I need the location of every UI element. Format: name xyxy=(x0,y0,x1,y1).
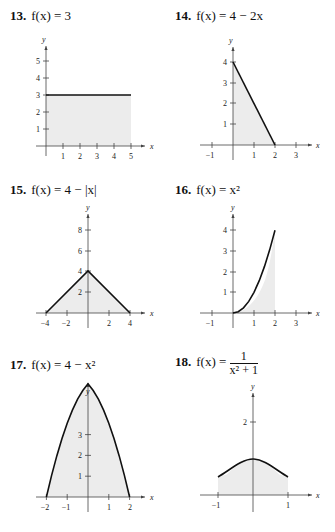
graph-15: −4 −2 2 4 2 4 6 8 x y xyxy=(36,203,154,328)
svg-text:−2: −2 xyxy=(62,319,71,328)
graph-14: −1 1 2 3 1 2 3 4 x y xyxy=(200,36,320,160)
svg-text:1: 1 xyxy=(78,472,82,481)
shaded-area xyxy=(233,230,275,313)
svg-text:3: 3 xyxy=(294,151,298,160)
svg-text:1: 1 xyxy=(107,503,111,512)
svg-text:y: y xyxy=(41,35,46,44)
svg-text:2: 2 xyxy=(78,451,82,460)
svg-text:4: 4 xyxy=(223,226,227,235)
svg-text:2: 2 xyxy=(78,288,82,297)
svg-text:x: x xyxy=(149,309,154,318)
svg-text:y: y xyxy=(230,203,235,212)
svg-text:1: 1 xyxy=(252,319,256,328)
shaded-area xyxy=(46,95,131,146)
svg-text:−1: −1 xyxy=(212,501,221,510)
svg-text:8: 8 xyxy=(78,226,82,235)
svg-text:−1: −1 xyxy=(206,319,215,328)
svg-text:2: 2 xyxy=(78,152,82,161)
svg-text:4: 4 xyxy=(78,267,82,276)
graph-16: −1 1 2 3 1 2 3 4 x y xyxy=(200,203,320,328)
svg-text:y: y xyxy=(250,382,255,391)
svg-text:2: 2 xyxy=(273,319,277,328)
graph-18: −1 1 2 x y xyxy=(200,382,320,512)
svg-text:1: 1 xyxy=(252,151,256,160)
svg-text:y: y xyxy=(85,387,90,396)
svg-text:3: 3 xyxy=(294,319,298,328)
svg-text:x: x xyxy=(149,142,154,151)
svg-text:x: x xyxy=(315,491,320,500)
graphs-canvas: 1 2 3 4 5 1 2 3 4 5 x y −1 1 2 3 1 2 3 4… xyxy=(0,0,335,532)
svg-text:2: 2 xyxy=(223,99,227,108)
svg-text:4: 4 xyxy=(112,152,116,161)
svg-text:3: 3 xyxy=(78,431,82,440)
svg-text:4: 4 xyxy=(223,58,227,67)
svg-text:3: 3 xyxy=(223,247,227,256)
svg-text:2: 2 xyxy=(243,418,247,427)
svg-text:−4: −4 xyxy=(41,319,50,328)
graph-17: −2 −1 1 2 1 2 3 x y xyxy=(36,383,154,512)
svg-text:−2: −2 xyxy=(41,503,50,512)
svg-text:2: 2 xyxy=(36,108,40,117)
svg-text:3: 3 xyxy=(223,79,227,88)
svg-text:5: 5 xyxy=(36,57,40,66)
svg-text:x: x xyxy=(149,493,154,502)
svg-text:2: 2 xyxy=(273,151,277,160)
svg-text:4: 4 xyxy=(36,74,40,83)
svg-text:1: 1 xyxy=(286,501,290,510)
svg-text:1: 1 xyxy=(61,152,65,161)
svg-text:2: 2 xyxy=(128,503,132,512)
svg-text:−1: −1 xyxy=(206,151,215,160)
svg-text:1: 1 xyxy=(36,125,40,134)
svg-text:x: x xyxy=(315,141,320,150)
svg-text:2: 2 xyxy=(107,319,111,328)
svg-text:3: 3 xyxy=(95,152,99,161)
svg-text:−1: −1 xyxy=(62,503,71,512)
svg-text:3: 3 xyxy=(36,91,40,100)
svg-text:1: 1 xyxy=(223,120,227,129)
graph-13: 1 2 3 4 5 1 2 3 4 5 x y xyxy=(36,35,154,161)
svg-text:y: y xyxy=(85,203,90,212)
svg-text:y: y xyxy=(228,36,233,45)
svg-text:5: 5 xyxy=(129,152,133,161)
svg-text:2: 2 xyxy=(223,268,227,277)
svg-text:4: 4 xyxy=(128,319,132,328)
svg-text:6: 6 xyxy=(78,247,82,256)
svg-text:x: x xyxy=(315,309,320,318)
svg-text:1: 1 xyxy=(223,288,227,297)
